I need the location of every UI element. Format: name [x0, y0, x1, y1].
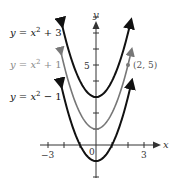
x-tick-label-neg3: −3: [41, 150, 55, 160]
curve-label-minus-1: y = x2 − 1: [9, 90, 62, 102]
y-axis-arrow-icon: [93, 21, 100, 29]
point-2-5-marker: [126, 63, 130, 67]
x-axis-arrow-icon: [153, 142, 161, 149]
x-axis-label: x: [163, 139, 169, 150]
curve-label-plus-3: y = x2 + 3: [9, 26, 62, 38]
parabola-shift-chart: x −3 0 3 y 5 (2, 5) y = x2 + 3 y = x2 + …: [0, 0, 171, 191]
x-tick-label-3: 3: [141, 150, 147, 160]
curve-label-plus-1: y = x2 + 1: [9, 58, 62, 70]
y-axis-label: y: [92, 9, 99, 20]
y-tick-label-5: 5: [84, 61, 90, 71]
x-tick-label-0: 0: [89, 147, 95, 157]
point-2-5-label: (2, 5): [133, 60, 157, 70]
